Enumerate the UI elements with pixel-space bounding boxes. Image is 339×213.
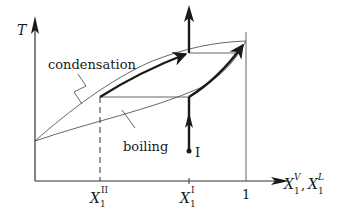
- phase-diagram: I condensation boiling T X 1 II X 1 I 1 …: [0, 0, 339, 213]
- boiling-curve: [35, 41, 246, 141]
- condensation-curve: [35, 41, 246, 141]
- point-I-marker: [187, 149, 192, 154]
- x-I-label: X 1 I: [179, 185, 196, 209]
- svg-text:L: L: [317, 172, 324, 182]
- svg-text:I: I: [191, 185, 195, 195]
- svg-text:1: 1: [190, 199, 196, 209]
- svg-text:1: 1: [100, 199, 106, 209]
- svg-text:,: ,: [301, 177, 305, 192]
- axes: [31, 16, 289, 185]
- x-one-label: 1: [242, 187, 250, 202]
- condensation-leader: [74, 74, 86, 104]
- x-II-label: X 1 II: [89, 185, 109, 209]
- svg-text:1: 1: [294, 186, 300, 196]
- point-I-label: I: [195, 145, 200, 160]
- x-axis-label: X 1 V , X 1 L: [283, 172, 324, 196]
- boiling-label: boiling: [123, 139, 168, 154]
- y-axis-label: T: [17, 22, 28, 38]
- condensation-label: condensation: [48, 57, 136, 72]
- svg-text:1: 1: [318, 186, 324, 196]
- svg-text:II: II: [101, 185, 109, 195]
